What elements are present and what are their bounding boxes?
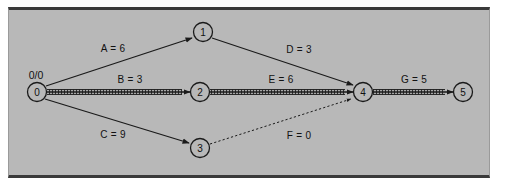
edge-E: E = 6 <box>210 74 353 95</box>
edge-F-label: F = 0 <box>287 130 312 141</box>
edge-F: F = 0 <box>210 99 351 144</box>
edge-B: B = 3 <box>47 74 190 95</box>
start-node-annotation: 0/0 <box>29 69 44 81</box>
edge-A-label: A = 6 <box>101 43 126 54</box>
node-2-label: 2 <box>197 87 203 98</box>
node-0[interactable]: 0 <box>28 83 47 102</box>
node-0-label: 0 <box>34 87 40 98</box>
edge-G: G = 5 <box>373 74 453 95</box>
node-5[interactable]: 5 <box>454 83 473 102</box>
node-2[interactable]: 2 <box>191 83 210 102</box>
edge-G-label: G = 5 <box>401 74 427 85</box>
edge-F-line <box>210 99 351 144</box>
node-3-label: 3 <box>197 143 203 154</box>
figure-page: A = 6 B = 3 C = 9 D = 3 E = 6 <box>0 0 507 192</box>
node-3[interactable]: 3 <box>191 139 210 158</box>
edge-D-label: D = 3 <box>286 44 312 55</box>
node-4-label: 4 <box>360 87 366 98</box>
edge-B-label: B = 3 <box>117 74 142 85</box>
network-diagram: A = 6 B = 3 C = 9 D = 3 E = 6 <box>0 0 507 192</box>
edge-C-label: C = 9 <box>100 129 126 140</box>
node-4[interactable]: 4 <box>354 83 373 102</box>
node-1[interactable]: 1 <box>194 23 213 42</box>
node-1-label: 1 <box>200 27 206 38</box>
edge-C: C = 9 <box>45 99 189 143</box>
edge-E-label: E = 6 <box>268 74 293 85</box>
node-5-label: 5 <box>460 87 466 98</box>
